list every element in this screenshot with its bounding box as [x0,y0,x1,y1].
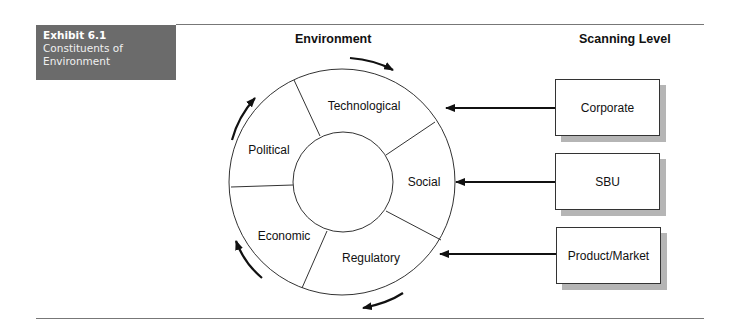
divider-social-regulatory [386,211,441,240]
scanning-box-product-market: Product/Market [556,227,661,284]
rotation-arrow-left-upper [232,98,255,140]
scanning-box-corporate: Corporate [555,79,660,136]
divider-technological-social [386,122,435,155]
scanning-label-corporate: Corporate [581,101,634,115]
rotation-arrow-top [350,58,393,70]
divider-political-technological [294,80,320,136]
segment-political: Political [248,143,289,157]
rotation-arrow-bottom [363,293,403,308]
segment-regulatory: Regulatory [342,251,400,265]
segment-economic: Economic [258,229,311,243]
segment-technological: Technological [328,99,401,113]
divider-political-economic [231,185,293,187]
scanning-box-sbu: SBU [555,153,660,210]
inner-circle [293,132,393,232]
scanning-label-sbu: SBU [595,175,620,189]
segment-social: Social [408,175,441,189]
scanning-label-product-market: Product/Market [568,249,649,263]
